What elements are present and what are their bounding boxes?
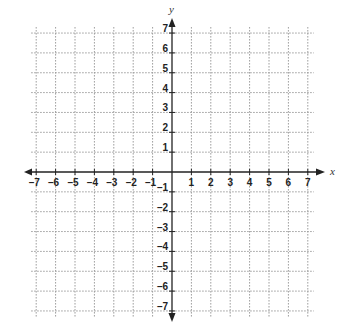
arrow-down-icon bbox=[169, 313, 176, 322]
y-tick-label: 3 bbox=[162, 102, 168, 113]
coordinate-plane: –7–6–5–4–3–2–11234567 7654321–1–2–3–4–5–… bbox=[0, 0, 349, 336]
axes bbox=[24, 18, 325, 322]
y-tick-label: 6 bbox=[162, 43, 168, 54]
x-tick-label: –1 bbox=[145, 177, 157, 188]
y-tick-label: –4 bbox=[157, 241, 169, 252]
y-tick-label: 2 bbox=[162, 122, 168, 133]
y-tick-label: 4 bbox=[162, 83, 168, 94]
x-tick-label: 4 bbox=[247, 177, 253, 188]
y-tick-label: –5 bbox=[157, 261, 169, 272]
x-tick-label: –7 bbox=[29, 177, 41, 188]
arrow-left-icon bbox=[24, 169, 32, 176]
arrow-right-icon bbox=[316, 169, 325, 176]
y-tick-label: 7 bbox=[162, 23, 168, 34]
x-axis-label: x bbox=[329, 165, 335, 177]
x-tick-label: 7 bbox=[305, 177, 311, 188]
y-tick-label: –2 bbox=[157, 202, 169, 213]
x-tick-label: 5 bbox=[266, 177, 272, 188]
x-tick-label: 3 bbox=[227, 177, 233, 188]
x-tick-label: –5 bbox=[67, 177, 79, 188]
y-tick-label: –1 bbox=[157, 182, 169, 193]
y-tick-label: 1 bbox=[162, 142, 168, 153]
x-tick-label: 6 bbox=[286, 177, 292, 188]
x-tick-label: –2 bbox=[126, 177, 138, 188]
x-tick-label: 1 bbox=[189, 177, 195, 188]
y-axis-label: y bbox=[168, 3, 174, 15]
y-tick-label: 5 bbox=[162, 63, 168, 74]
x-tick-label: –6 bbox=[48, 177, 60, 188]
x-tick-label: –4 bbox=[87, 177, 99, 188]
x-tick-label: –3 bbox=[106, 177, 118, 188]
y-tick-label: –6 bbox=[157, 281, 169, 292]
x-tick-label: 2 bbox=[208, 177, 214, 188]
arrow-up-icon bbox=[169, 18, 176, 27]
y-tick-label: –7 bbox=[157, 301, 169, 312]
y-tick-label: –3 bbox=[157, 222, 169, 233]
